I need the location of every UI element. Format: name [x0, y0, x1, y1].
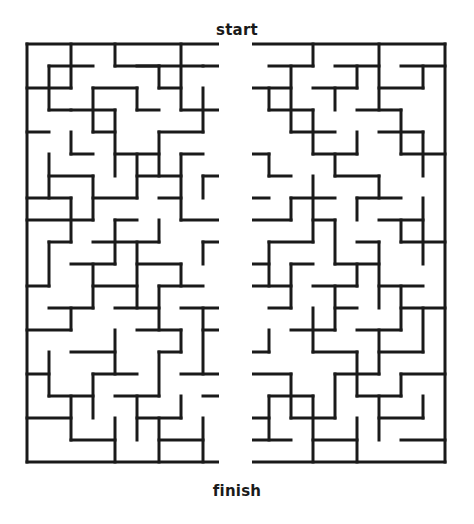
- maze-wall-group: [27, 44, 445, 462]
- maze-diagram: [0, 0, 474, 524]
- finish-label: finish: [0, 482, 474, 500]
- maze-page: start finish: [0, 0, 474, 524]
